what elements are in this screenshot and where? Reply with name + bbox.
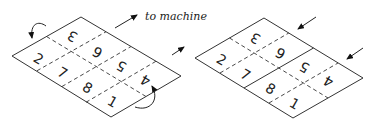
- svg-text:6: 6: [273, 44, 289, 62]
- to-machine-label: to machine: [145, 10, 207, 23]
- svg-text:6: 6: [90, 43, 106, 61]
- svg-text:2: 2: [31, 50, 47, 68]
- imposition-diagram: 3 6 5 4 2 7 8 1 to machine 3 6 5 4 2 7: [0, 0, 374, 126]
- svg-text:3: 3: [248, 29, 264, 47]
- svg-text:2: 2: [214, 51, 230, 69]
- svg-text:4: 4: [321, 72, 337, 90]
- right-sheet: 3 6 5 4 2 7 8 1: [195, 17, 363, 118]
- svg-text:3: 3: [65, 27, 81, 45]
- svg-text:1: 1: [105, 93, 121, 111]
- svg-text:5: 5: [114, 57, 130, 75]
- svg-text:5: 5: [297, 58, 313, 76]
- svg-text:8: 8: [80, 79, 96, 97]
- left-sheet: 3 6 5 4 2 7 8 1: [12, 17, 181, 117]
- arrow-to-machine-icon: [115, 15, 137, 28]
- inward-arrow-icon: [298, 17, 316, 29]
- arrow-to-machine-icon: [172, 47, 184, 55]
- inward-arrow-icon: [347, 48, 363, 59]
- svg-text:8: 8: [263, 80, 279, 98]
- svg-text:7: 7: [55, 64, 71, 82]
- svg-text:4: 4: [138, 71, 154, 89]
- svg-text:7: 7: [238, 66, 254, 84]
- svg-text:1: 1: [287, 95, 303, 113]
- right-sheet-numbers: 3 6 5 4 2 7 8 1: [214, 29, 337, 113]
- flip-arrow-icon: [32, 23, 46, 38]
